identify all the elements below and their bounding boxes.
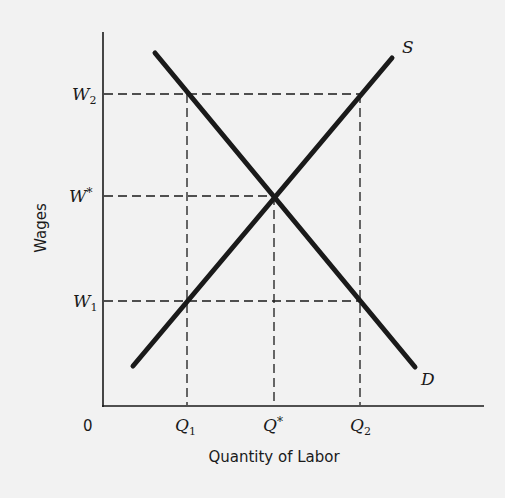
labor-market-diagram: S D W2 W* W1 0 Q1 Q* Q2 Quantity of Labo… (0, 0, 505, 498)
x-tick-q2: Q2 (350, 415, 371, 438)
demand-curve (155, 53, 415, 367)
y-tick-labels: W2 W* W1 (69, 84, 97, 314)
y-tick-wstar: W* (69, 186, 92, 206)
supply-label: S (402, 37, 414, 57)
origin-label: 0 (83, 417, 93, 435)
y-tick-w1: W1 (73, 291, 97, 314)
x-tick-qstar: Q* (263, 415, 283, 435)
x-tick-q1: Q1 (175, 415, 196, 438)
x-tick-labels: 0 Q1 Q* Q2 (83, 415, 371, 438)
y-tick-w2: W2 (72, 84, 96, 107)
supply-curve (133, 58, 392, 366)
y-axis-title: Wages (32, 203, 50, 253)
x-axis-title: Quantity of Labor (208, 448, 340, 466)
demand-label: D (420, 369, 435, 389)
